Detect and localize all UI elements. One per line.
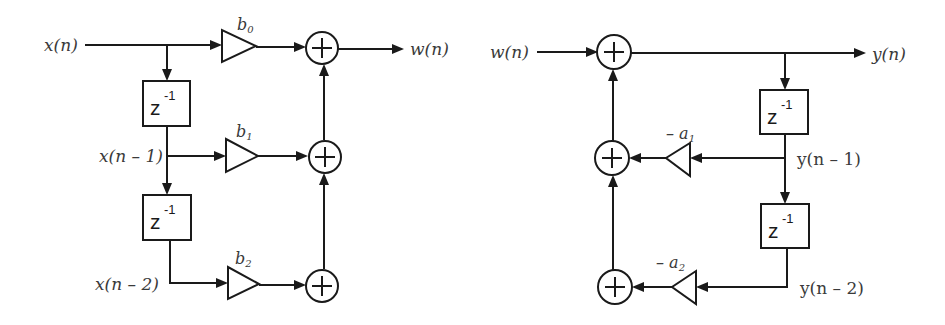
arrowhead-icon	[696, 282, 708, 292]
svg-text:-1: -1	[781, 97, 793, 112]
arrowhead-icon	[780, 192, 790, 204]
label-w-n-in: w(n)	[490, 42, 529, 62]
arrowhead-icon	[319, 64, 329, 76]
svg-text:z: z	[150, 210, 161, 233]
gain-triangle-a2	[672, 271, 696, 304]
adder-sum0	[306, 32, 338, 64]
coef-a1: – a1	[666, 124, 695, 144]
arrowhead-icon	[690, 153, 702, 163]
fb-delay-block-2: z -1	[761, 204, 809, 248]
iir-diagram: w(n) y(n) z -1 y(n – 1) – a1	[490, 35, 906, 304]
block-diagram-canvas: x(n) z -1 x(n – 1) z -1 x(n –	[0, 0, 945, 325]
coef-b1: b1	[236, 122, 253, 142]
adder-sum1	[309, 141, 341, 173]
arrowhead-icon	[214, 151, 226, 161]
gain-triangle-b2	[228, 267, 259, 299]
adder-fb-sum1	[595, 141, 629, 175]
arrowhead-icon	[392, 44, 404, 54]
arrowhead-icon	[319, 173, 329, 185]
arrowhead-icon	[162, 183, 172, 195]
gain-triangle-a1	[666, 143, 690, 176]
fb-delay-block-1: z -1	[760, 90, 808, 134]
coef-b2: b2	[235, 249, 252, 269]
arrowhead-icon	[854, 48, 866, 58]
label-x-n: x(n)	[44, 35, 78, 55]
arrowhead-icon	[780, 78, 790, 90]
arrowhead-icon	[294, 42, 306, 52]
fir-diagram: x(n) z -1 x(n – 1) z -1 x(n –	[44, 15, 449, 302]
arrowhead-icon	[632, 282, 644, 292]
label-y-n-2: y(n – 2)	[799, 278, 864, 298]
gain-triangle-b1	[226, 139, 258, 172]
svg-text:z: z	[768, 219, 779, 242]
adder-sum2	[306, 270, 338, 302]
svg-text:-1: -1	[164, 202, 176, 217]
label-w-n-out: w(n)	[410, 39, 449, 59]
label-y-n: y(n)	[871, 44, 906, 64]
label-x-n-2: x(n – 2)	[95, 274, 159, 294]
svg-text:-1: -1	[164, 88, 176, 103]
wire-yn2-to-a2	[704, 248, 787, 287]
arrowhead-icon	[629, 153, 641, 163]
adder-fb-sum2	[598, 270, 632, 304]
svg-text:-1: -1	[782, 211, 794, 226]
adder-fb-sum0	[597, 35, 631, 69]
arrowhead-icon	[296, 151, 308, 161]
label-x-n-1: x(n – 1)	[99, 146, 163, 166]
coef-b0: b0	[237, 15, 254, 35]
coef-a2: – a2	[656, 253, 685, 273]
delay-block-2: z -1	[143, 195, 191, 240]
delay-block-1: z -1	[143, 81, 190, 126]
arrowhead-icon	[294, 280, 306, 290]
svg-text:z: z	[150, 96, 161, 119]
label-y-n-1: y(n – 1)	[796, 149, 861, 169]
arrowhead-icon	[608, 175, 618, 187]
arrowhead-icon	[608, 69, 618, 81]
svg-text:z: z	[767, 105, 778, 128]
arrowhead-icon	[210, 40, 222, 50]
arrowhead-icon	[216, 278, 228, 288]
wire-xn2-to-b2	[170, 240, 219, 283]
arrowhead-icon	[162, 69, 172, 81]
